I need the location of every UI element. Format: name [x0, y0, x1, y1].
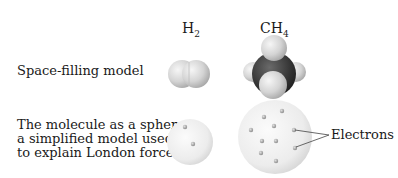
molecule-diagram — [0, 0, 398, 178]
ch4-space-filling-model — [243, 35, 306, 99]
electron-icon — [191, 142, 195, 146]
h2-sphere-model — [167, 119, 213, 165]
h2-space-filling-model — [168, 60, 210, 88]
electron-icon — [183, 125, 187, 129]
ch4-sphere-model — [238, 100, 312, 174]
